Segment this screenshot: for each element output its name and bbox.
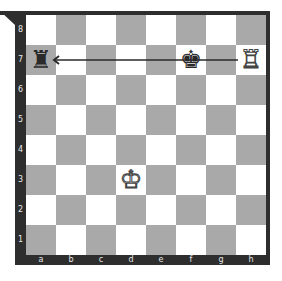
move-arrow bbox=[0, 0, 282, 281]
